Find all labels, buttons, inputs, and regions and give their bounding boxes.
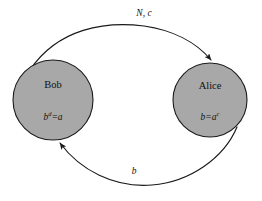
node-bob-formula: bd=a [43, 110, 62, 122]
node-alice-label: Alice [199, 80, 222, 91]
node-alice-formula-exponent: c [217, 110, 220, 117]
diagram-svg: N, c b Bob bd=a Alice b=ac [0, 0, 262, 201]
node-alice-circle[interactable] [173, 63, 247, 137]
node-alice[interactable]: Alice b=ac [173, 63, 247, 137]
node-bob-circle[interactable] [13, 60, 93, 140]
edge-bob-to-alice-label: N, c [135, 8, 152, 18]
node-alice-formula-base: b=a [201, 112, 217, 122]
node-bob-label: Bob [44, 79, 62, 90]
node-bob[interactable]: Bob bd=a [13, 60, 93, 140]
diagram-canvas: N, c b Bob bd=a Alice b=ac [0, 0, 262, 201]
edge-alice-to-bob-label: b [132, 166, 137, 176]
node-bob-formula-tail: =a [51, 112, 62, 122]
